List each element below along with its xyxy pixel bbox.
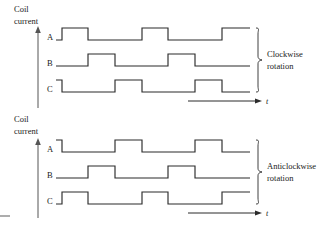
bottom-channel-b-label: B (47, 170, 53, 180)
top-rotation-label-line2: rotation (267, 61, 294, 71)
bottom-waveform-a (56, 140, 250, 152)
bottom-y-axis (35, 138, 41, 218)
bottom-channel-a-label: A (47, 144, 54, 154)
bottom-y-axis-label-line1: Coil (14, 114, 29, 124)
top-t-axis (188, 98, 262, 103)
top-channel-a-label: A (47, 32, 54, 42)
timing-diagram-figure: Coil current A B C t (0, 0, 320, 225)
top-waveform-b (56, 54, 250, 66)
bottom-y-axis-label-line2: current (14, 126, 39, 136)
bottom-t-axis-label: t (266, 209, 269, 218)
bottom-rotation-label-line1: Anticlockwise (267, 161, 316, 171)
timing-diagram-svg: Coil current A B C t (0, 0, 320, 225)
top-y-axis-label-line1: Coil (14, 4, 29, 14)
anticlockwise-panel: Coil current A B C t Anticlockwise ro (14, 114, 316, 218)
top-rotation-brace (256, 28, 262, 92)
bottom-t-axis (188, 210, 262, 215)
top-channel-b-label: B (47, 58, 53, 68)
bottom-rotation-brace (256, 140, 262, 204)
clockwise-panel: Coil current A B C t (14, 4, 303, 108)
top-waveform-c (56, 80, 250, 92)
bottom-waveform-b (56, 166, 250, 178)
bottom-channel-c-label: C (47, 196, 53, 206)
top-waveform-a (56, 28, 250, 40)
top-y-axis (35, 26, 41, 108)
top-y-axis-label-line2: current (14, 16, 39, 26)
bottom-waveform-c (56, 192, 250, 204)
top-t-axis-label: t (266, 97, 269, 106)
bottom-rotation-label-line2: rotation (267, 173, 294, 183)
top-rotation-label-line1: Clockwise (267, 49, 303, 59)
top-channel-c-label: C (47, 84, 53, 94)
